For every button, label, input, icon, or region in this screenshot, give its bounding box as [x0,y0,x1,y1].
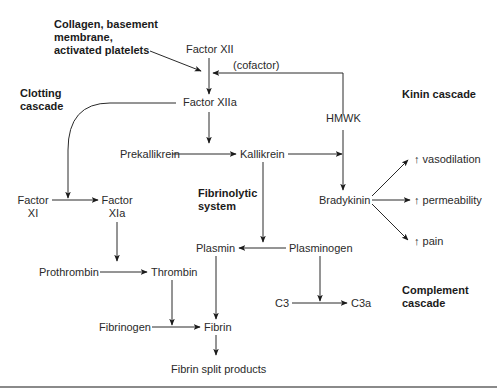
label-cofactor: (cofactor) [233,59,279,72]
node-fibrinogen: Fibrinogen [99,321,151,334]
node-bradykinin: Bradykinin [319,194,370,207]
header-fibrinolytic-system: Fibrinolytic system [198,187,257,213]
node-factor-xiia: Factor XIIa [183,96,237,109]
node-plasminogen: Plasminogen [289,242,353,255]
node-c3: C3 [275,297,289,310]
node-factor-xia-line2: XIa [109,207,126,220]
node-factor-xi-line1: Factor [17,194,48,207]
node-c3a: C3a [351,297,371,310]
node-vasodilation: ↑ vasodilation [414,153,481,166]
node-factor-xia-line1: Factor [101,194,132,207]
header-kinin-cascade: Kinin cascade [402,88,476,101]
node-fibrin: Fibrin [204,321,232,334]
node-thrombin: Thrombin [151,266,197,279]
header-clotting-cascade: Clotting cascade [20,87,63,113]
node-hmwk: HMWK [326,112,361,125]
node-fibrin-split-products: Fibrin split products [171,363,266,376]
node-factor-xi-line2: XI [28,207,38,220]
arrow-bradykinin-to-vasodilation [372,160,408,196]
node-prothrombin: Prothrombin [39,266,99,279]
node-plasmin: Plasmin [196,242,235,255]
node-pain: ↑ pain [414,235,443,248]
bottom-rule-divider [0,386,497,388]
node-factor-xii: Factor XII [186,43,234,56]
arrow-bradykinin-to-pain [372,204,408,240]
node-prekallikrein: Prekallikrein [120,148,180,161]
header-triggers: Collagen, basement membrane, activated p… [54,18,158,57]
node-permeability: ↑ permeability [414,194,482,207]
node-kallikrein: Kallikrein [240,148,285,161]
header-complement-cascade: Complement cascade [402,284,469,310]
